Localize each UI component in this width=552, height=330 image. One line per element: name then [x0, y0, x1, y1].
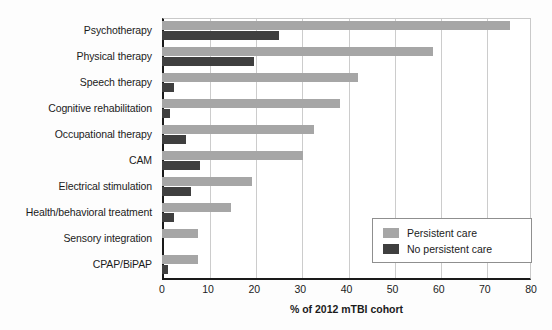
y-axis-category-labels: PsychotherapyPhysical therapySpeech ther…	[0, 18, 157, 278]
bar	[162, 31, 279, 40]
y-axis-label: Cognitive rehabilitation	[0, 102, 152, 114]
bar	[162, 73, 358, 82]
bar	[162, 83, 174, 92]
legend-label: Persistent care	[407, 227, 477, 239]
y-axis-label: CPAP/BiPAP	[0, 258, 152, 270]
bar	[162, 213, 174, 222]
y-axis-label: Electrical stimulation	[0, 180, 152, 192]
bar	[162, 203, 231, 212]
bar	[162, 57, 254, 66]
y-axis-label: Psychotherapy	[0, 24, 152, 36]
bar	[162, 161, 200, 170]
bar	[162, 177, 252, 186]
bar	[162, 21, 510, 30]
x-tick-label: 80	[525, 283, 537, 295]
bar-group	[162, 122, 531, 148]
legend-swatch-icon	[383, 244, 399, 254]
bar-group	[162, 96, 531, 122]
y-axis-label: Physical therapy	[0, 50, 152, 62]
bar	[162, 187, 191, 196]
y-axis-label: Sensory integration	[0, 232, 152, 244]
bar-group	[162, 148, 531, 174]
x-tick-label: 20	[248, 283, 260, 295]
legend-item: No persistent care	[383, 241, 531, 257]
bar	[162, 47, 433, 56]
bar-chart: PsychotherapyPhysical therapySpeech ther…	[0, 0, 552, 330]
bar-group	[162, 174, 531, 200]
legend-label: No persistent care	[407, 243, 492, 255]
x-axis-title: % of 2012 mTBI cohort	[162, 303, 531, 315]
bar	[162, 99, 340, 108]
x-tick-label: 0	[159, 283, 165, 295]
x-tick-label: 50	[387, 283, 399, 295]
y-axis-label: CAM	[0, 154, 152, 166]
legend-item: Persistent care	[383, 225, 531, 241]
bar	[162, 255, 198, 264]
x-tick-label: 70	[479, 283, 491, 295]
bar	[162, 265, 168, 274]
y-axis-label: Health/behavioral treatment	[0, 206, 152, 218]
bar	[162, 125, 314, 134]
bar	[162, 109, 170, 118]
bar-group	[162, 18, 531, 44]
y-axis-label: Speech therapy	[0, 76, 152, 88]
x-axis-tick-labels: 01020304050607080	[162, 283, 531, 299]
x-tick-label: 60	[433, 283, 445, 295]
y-axis-label: Occupational therapy	[0, 128, 152, 140]
x-tick-label: 10	[202, 283, 214, 295]
x-tick-label: 30	[295, 283, 307, 295]
chart-legend: Persistent careNo persistent care	[372, 218, 532, 263]
bar-group	[162, 44, 531, 70]
bar	[162, 229, 198, 238]
x-tick-label: 40	[341, 283, 353, 295]
legend-swatch-icon	[383, 228, 399, 238]
bar	[162, 151, 303, 160]
bar	[162, 135, 186, 144]
bar-group	[162, 70, 531, 96]
